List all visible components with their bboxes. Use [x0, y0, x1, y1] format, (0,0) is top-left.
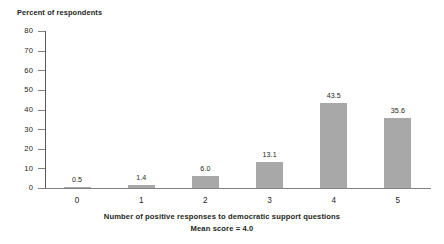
mean-score-annotation: Mean score = 4.0	[0, 224, 444, 233]
bar	[64, 187, 91, 188]
y-axis-line	[45, 31, 46, 189]
bar	[192, 176, 219, 188]
bar	[384, 118, 411, 188]
bar-chart: Percent of respondents 01020304050607080…	[0, 0, 444, 244]
y-axis-tick	[38, 31, 45, 32]
y-axis-tick	[38, 110, 45, 111]
y-axis-tick	[38, 129, 45, 130]
x-axis-tick-label: 2	[180, 196, 230, 205]
x-axis-tick-label: 0	[52, 196, 102, 205]
x-axis-tick-label: 1	[116, 196, 166, 205]
bar-value-label: 1.4	[111, 174, 171, 182]
y-axis-tick-label: 50	[3, 85, 33, 94]
y-axis-tick	[38, 188, 45, 189]
x-axis-tick-label: 3	[245, 196, 295, 205]
y-axis-tick-label: 20	[3, 144, 33, 153]
y-axis-tick-label: 10	[3, 164, 33, 173]
y-axis-tick-label: 80	[3, 26, 33, 35]
bar-value-label: 43.5	[304, 92, 364, 100]
y-axis-tick-label: 70	[3, 46, 33, 55]
y-axis-tick-label: 40	[3, 105, 33, 114]
bar	[320, 103, 347, 188]
y-axis-tick	[38, 168, 45, 169]
x-axis-tick-label: 4	[309, 196, 359, 205]
bar-value-label: 6.0	[175, 165, 235, 173]
bar-value-label: 13.1	[240, 151, 300, 159]
y-axis-tick	[38, 70, 45, 71]
x-axis-line	[45, 188, 431, 189]
y-axis-tick	[38, 149, 45, 150]
bar	[128, 185, 155, 188]
y-axis-tick-label: 0	[3, 183, 33, 192]
bar-value-label: 35.6	[368, 107, 428, 115]
bar	[256, 162, 283, 188]
bar-value-label: 0.5	[47, 176, 107, 184]
x-axis-tick-label: 5	[373, 196, 423, 205]
x-axis-caption: Number of positive responses to democrat…	[0, 212, 444, 221]
y-axis-tick-label: 60	[3, 66, 33, 75]
y-axis-tick	[38, 51, 45, 52]
y-axis-title: Percent of respondents	[17, 8, 102, 17]
y-axis-tick	[38, 90, 45, 91]
y-axis-tick-label: 30	[3, 125, 33, 134]
